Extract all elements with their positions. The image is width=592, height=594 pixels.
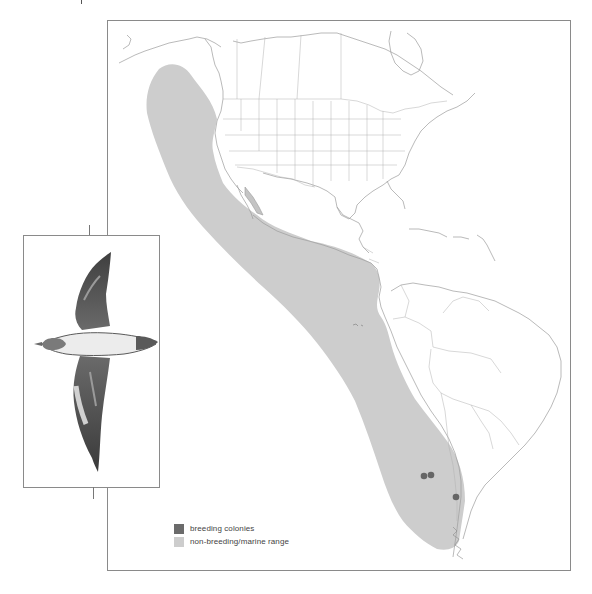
legend-label: non-breeding/marine range <box>190 537 289 546</box>
bird-illustration-panel <box>23 235 160 488</box>
breeding-colony-dot <box>421 473 428 480</box>
bird-tail <box>136 336 158 350</box>
breeding-colony-dot <box>453 494 460 501</box>
legend-item-marine-range: non-breeding/marine range <box>174 535 289 548</box>
connector-tick <box>93 487 94 499</box>
legend-swatch-marine-range <box>174 537 184 547</box>
crop-mark <box>81 0 82 4</box>
legend-item-breeding-colonies: breeding colonies <box>174 522 289 535</box>
range-map <box>107 20 571 571</box>
bird-upper-wing <box>75 252 111 330</box>
bird-lower-wing <box>73 356 110 472</box>
map-legend: breeding colonies non-breeding/marine ra… <box>174 522 289 548</box>
seabird-illustration <box>24 236 161 489</box>
breeding-colony-dot <box>428 472 435 479</box>
bird-beak <box>34 342 42 346</box>
legend-label: breeding colonies <box>190 524 254 533</box>
connector-tick <box>89 225 90 235</box>
legend-swatch-breeding <box>174 524 184 534</box>
map-canvas <box>108 21 571 571</box>
